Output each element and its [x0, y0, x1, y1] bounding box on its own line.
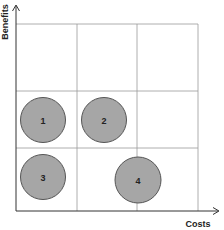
y-axis-label: Benefits	[0, 4, 10, 40]
item-label: 4	[135, 176, 140, 186]
item-2: 2	[82, 98, 127, 143]
item-1: 1	[21, 98, 66, 143]
item-4: 4	[115, 157, 161, 203]
x-axis-label: Costs	[185, 219, 210, 229]
item-label: 2	[101, 116, 106, 126]
item-label: 1	[40, 116, 45, 126]
item-label: 3	[40, 173, 45, 183]
cost-benefit-matrix: Costs Benefits 1 2 3 4	[0, 0, 224, 230]
item-3: 3	[21, 155, 66, 200]
